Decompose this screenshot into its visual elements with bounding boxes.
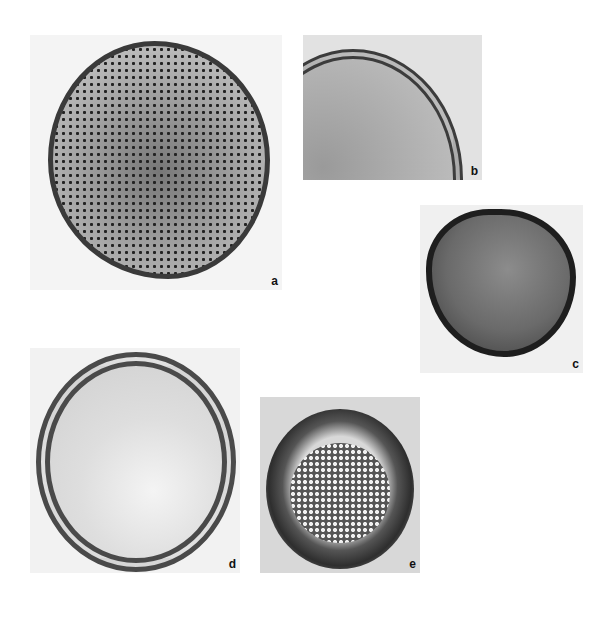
- panel-label-b: b: [471, 164, 478, 178]
- panel-d: d: [30, 348, 240, 573]
- panel-a: a: [30, 35, 282, 290]
- panel-label-a: a: [271, 274, 278, 288]
- panel-e: e: [260, 397, 420, 573]
- panel-label-e: e: [409, 557, 416, 571]
- panel-c: c: [420, 205, 583, 373]
- pollen-grain-c: [426, 209, 576, 357]
- pollen-grain-a: [48, 41, 270, 279]
- panel-b: b: [303, 35, 482, 180]
- reticulate-surface-e: [290, 443, 390, 543]
- panel-label-c: c: [572, 357, 579, 371]
- panel-label-d: d: [229, 557, 236, 571]
- pollen-wall-b: [303, 49, 463, 180]
- pollen-grain-d: [36, 352, 236, 572]
